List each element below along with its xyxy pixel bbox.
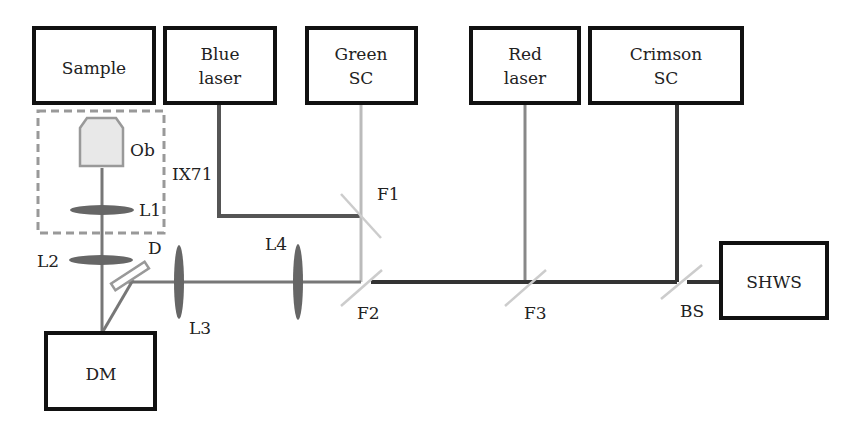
lens-l4-icon	[293, 244, 303, 320]
l2-label: L2	[37, 251, 59, 271]
lens-l3-icon	[174, 245, 184, 319]
d-label: D	[148, 238, 162, 258]
red-laser-label-1: Red	[508, 44, 542, 64]
blue-laser-label-1: Blue	[201, 44, 240, 64]
green-sc-box: Green SC	[307, 28, 416, 103]
bs-label: BS	[680, 301, 704, 321]
shws-label: SHWS	[746, 272, 802, 292]
optical-setup-diagram: Sample Blue laser Green SC Red laser Cri…	[0, 0, 860, 426]
blue-laser-beam	[219, 103, 360, 216]
blue-laser-box: Blue laser	[165, 28, 275, 103]
red-laser-box: Red laser	[471, 28, 579, 103]
red-laser-label-2: laser	[504, 68, 547, 88]
sample-label: Sample	[62, 58, 126, 78]
dm-box: DM	[46, 333, 155, 409]
l3-label: L3	[189, 318, 211, 338]
crimson-sc-box: Crimson SC	[590, 28, 742, 103]
dm-label: DM	[85, 364, 116, 384]
f1-label: F1	[377, 184, 400, 204]
shws-box: SHWS	[721, 243, 827, 318]
lens-l1-icon	[70, 205, 134, 215]
ix71-label: IX71	[172, 164, 212, 184]
f2-label: F2	[357, 303, 380, 323]
blue-laser-label-2: laser	[199, 68, 242, 88]
crimson-sc-label-1: Crimson	[630, 44, 703, 64]
sample-box: Sample	[34, 28, 154, 103]
crimson-sc-label-2: SC	[654, 68, 679, 88]
f3-label: F3	[524, 303, 547, 323]
green-sc-label-1: Green	[335, 44, 388, 64]
lens-l2-icon	[69, 255, 133, 265]
green-sc-label-2: SC	[349, 68, 374, 88]
l1-label: L1	[139, 200, 161, 220]
objective-label: Ob	[130, 140, 155, 160]
l4-label: L4	[265, 234, 287, 254]
objective-icon	[80, 118, 123, 166]
